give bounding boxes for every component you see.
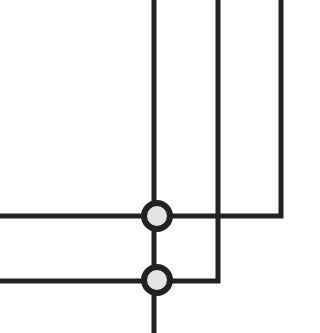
wiring-diagram (0, 0, 320, 333)
junction-top-node (144, 203, 170, 229)
junction-bottom-node (144, 267, 170, 293)
diagram-canvas (0, 0, 320, 333)
